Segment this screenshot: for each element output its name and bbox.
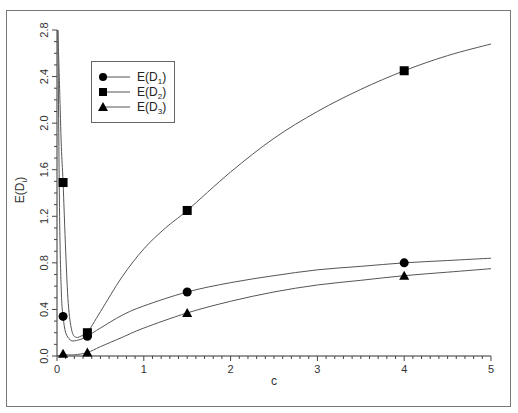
square-marker xyxy=(83,328,92,337)
triangle-marker xyxy=(82,348,92,357)
y-tick-label: 0.0 xyxy=(38,348,50,363)
y-tick-label: 0.4 xyxy=(38,302,50,317)
y-tick-label: 0.8 xyxy=(38,255,50,270)
square-marker-icon xyxy=(99,88,107,96)
square-marker xyxy=(59,178,68,187)
y-tick-label: 2.0 xyxy=(38,115,50,130)
y-axis-label: E(Di) xyxy=(13,177,29,203)
y-tick-label: 1.6 xyxy=(38,162,50,177)
x-tick-label: 1 xyxy=(141,363,147,375)
x-tick-label: 2 xyxy=(228,363,234,375)
y-tick-label: 1.2 xyxy=(38,209,50,224)
y-tick-label: 2.8 xyxy=(38,22,50,37)
svg-text:E(D3): E(D3) xyxy=(137,100,166,116)
circle-marker xyxy=(400,258,409,267)
chart-canvas: 0123450.00.40.81.21.62.02.42.8 E(D1) E(D… xyxy=(0,0,518,413)
x-tick-label: 4 xyxy=(401,363,407,375)
chart-frame xyxy=(7,11,511,407)
square-marker xyxy=(183,206,192,215)
x-tick-label: 0 xyxy=(54,363,60,375)
y-tick-label: 2.4 xyxy=(38,69,50,84)
square-marker xyxy=(400,66,409,75)
legend: E(D1) E(D2) E(D3) xyxy=(92,62,175,123)
triangle-marker xyxy=(182,308,192,317)
circle-marker-icon xyxy=(99,73,107,81)
svg-text:E(D2): E(D2) xyxy=(137,85,166,101)
circle-marker xyxy=(183,287,192,296)
x-axis-label: c xyxy=(271,374,277,388)
curve-ed3 xyxy=(57,269,491,356)
circle-marker xyxy=(59,312,68,321)
x-tick-label: 5 xyxy=(488,363,494,375)
svg-text:E(D1): E(D1) xyxy=(137,70,166,86)
triangle-marker xyxy=(58,349,68,358)
x-tick-label: 3 xyxy=(314,363,320,375)
